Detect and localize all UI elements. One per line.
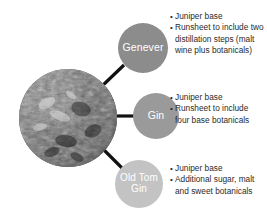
bullet-text: Juniper base xyxy=(175,11,264,22)
bullet-text: Juniper base xyxy=(175,92,262,103)
node-genever-label: Genever xyxy=(118,42,168,53)
list-item: • Juniper base xyxy=(170,11,264,22)
node-old-tom-gin[interactable]: Old Tom Gin xyxy=(115,160,163,208)
bullet-list-gin: • Juniper base • Runsheet to include fou… xyxy=(170,92,262,126)
juniper-botanicals-photo xyxy=(19,69,117,167)
bullet-list-old-tom-gin: • Juniper base • Additional sugar, malt … xyxy=(170,163,264,197)
bullet-text: Runsheet to include four base botanicals xyxy=(175,103,262,126)
node-genever[interactable]: Genever xyxy=(118,23,168,73)
node-old-tom-gin-label-line-2: Gin xyxy=(131,183,147,194)
connector-line-genever xyxy=(101,65,124,87)
gin-styles-diagram: Genever Gin Old Tom Gin • Juniper base •… xyxy=(0,0,267,224)
bullet-text: Additional sugar, malt and sweet botanic… xyxy=(175,174,264,197)
list-item: • Additional sugar, malt and sweet botan… xyxy=(170,174,264,197)
list-item: • Juniper base xyxy=(170,92,262,103)
node-old-tom-gin-label-line-1: Old Tom xyxy=(120,172,158,183)
bullet-text: Juniper base xyxy=(175,163,264,174)
bullet-text: Runsheet to include two distillation ste… xyxy=(175,22,264,56)
bullet-list-genever: • Juniper base • Runsheet to include two… xyxy=(170,11,264,57)
node-old-tom-gin-label: Old Tom Gin xyxy=(115,173,163,195)
list-item: • Runsheet to include two distillation s… xyxy=(170,22,264,56)
list-item: • Juniper base xyxy=(170,163,264,174)
list-item: • Runsheet to include four base botanica… xyxy=(170,103,262,126)
